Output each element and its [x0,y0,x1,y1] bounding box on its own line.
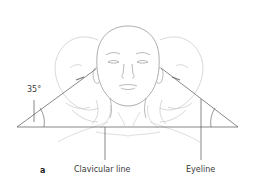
right-eyeline-diagonal [161,68,238,127]
right-rotated-head [160,37,203,124]
left-rotated-head [55,37,98,124]
center-head [97,26,159,106]
figure-canvas: 35° a Clavicular line Eyeline [0,0,260,187]
shoulders-outline [58,105,200,142]
left-angle-arc [40,108,44,127]
eyeline-label: Eyeline [186,166,215,174]
angle-label: 35° [27,86,41,94]
clavicular-line-label: Clavicular line [74,166,131,174]
panel-letter: a [40,167,45,175]
right-angle-arc [211,108,215,127]
